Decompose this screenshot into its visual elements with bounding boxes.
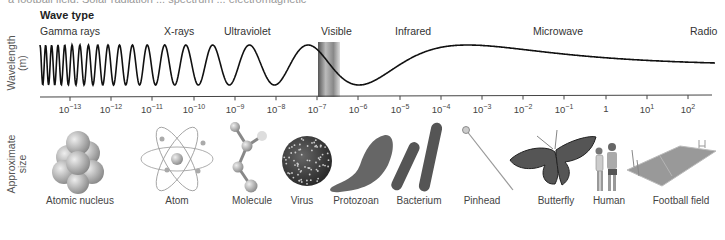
atomic-nucleus-icon <box>52 131 104 194</box>
molecule-icon <box>230 122 267 193</box>
size-caption: Bacterium <box>396 195 441 206</box>
size-caption: Football field <box>653 195 710 206</box>
protozoan-icon <box>330 135 393 192</box>
atom-icon <box>141 122 213 196</box>
axis-tick-label: 10−3 <box>473 103 492 115</box>
axis-tick-label: 10−11 <box>141 103 163 115</box>
size-caption: Atom <box>165 195 188 206</box>
axis-tick-label: 10−12 <box>100 103 122 115</box>
axis-tick-label: 10−9 <box>226 103 245 115</box>
size-caption: Protozoan <box>333 195 379 206</box>
wave-line <box>40 45 715 85</box>
size-caption: Butterfly <box>538 195 575 206</box>
axis-tick-label: 10−5 <box>391 103 410 115</box>
size-caption: Human <box>593 195 625 206</box>
axis-tick-label: 10−6 <box>349 103 368 115</box>
axis-tick-label: 10−7 <box>308 103 327 115</box>
size-caption: Virus <box>291 195 314 206</box>
axis-tick-label: 1 <box>603 103 608 114</box>
axis-tick-label: 102 <box>681 103 695 115</box>
axis-tick-label: 10−2 <box>514 103 533 115</box>
human-icon <box>596 143 618 191</box>
football-field-icon <box>627 140 716 186</box>
axis-tick-label: 10−13 <box>59 103 81 115</box>
axis-tick-label: 10−10 <box>183 103 205 115</box>
axis-tick-label: 10−8 <box>267 103 286 115</box>
axis-tick-label: 10−1 <box>555 103 574 115</box>
pinhead-icon <box>463 127 514 191</box>
axis-tick-label: 10−4 <box>432 103 451 115</box>
virus-icon <box>282 136 332 186</box>
bacterium-icon <box>389 122 443 193</box>
butterfly-icon <box>510 130 596 185</box>
axis-tick-label: 101 <box>640 103 654 115</box>
wavelength-axis <box>40 95 712 97</box>
size-caption: Molecule <box>232 195 272 206</box>
size-caption: Pinhead <box>464 195 501 206</box>
visible-band <box>318 42 340 97</box>
size-caption: Atomic nucleus <box>46 195 114 206</box>
